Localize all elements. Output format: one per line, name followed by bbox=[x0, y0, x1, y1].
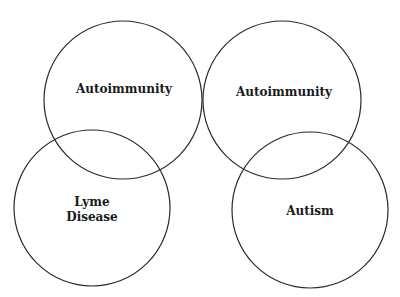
venn-diagram-canvas: Autoimmunity Lyme Disease Autoimmunity A… bbox=[0, 0, 400, 297]
label-autism: Autism bbox=[285, 204, 334, 218]
venn-diagram: Autoimmunity Lyme Disease Autoimmunity A… bbox=[0, 0, 400, 297]
label-lyme: Lyme bbox=[74, 195, 110, 209]
circle-autoimmunity-right bbox=[203, 21, 361, 179]
circle-autoimmunity-left bbox=[44, 21, 202, 179]
label-disease: Disease bbox=[66, 210, 118, 224]
label-autoimmunity-right: Autoimmunity bbox=[235, 85, 333, 99]
label-autoimmunity-left: Autoimmunity bbox=[75, 82, 173, 96]
